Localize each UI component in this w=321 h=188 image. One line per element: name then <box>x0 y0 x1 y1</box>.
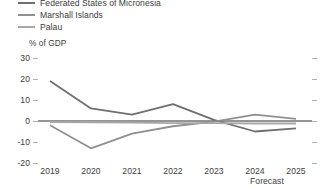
x-tick-label-2024: 2024 <box>235 166 275 176</box>
x-tick-label-2019: 2019 <box>30 166 70 176</box>
x-tick-label-2020: 2020 <box>71 166 111 176</box>
series-line-palau <box>50 122 296 123</box>
gdp-line-chart: Federated States of Micronesia Marshall … <box>0 0 321 188</box>
forecast-axis-label: Forecast <box>250 176 284 186</box>
x-tick-label-2022: 2022 <box>153 166 193 176</box>
x-tick-label-2021: 2021 <box>112 166 152 176</box>
x-tick-label-2025: 2025 <box>276 166 316 176</box>
x-tick-label-2023: 2023 <box>194 166 234 176</box>
plot-area <box>0 0 321 188</box>
